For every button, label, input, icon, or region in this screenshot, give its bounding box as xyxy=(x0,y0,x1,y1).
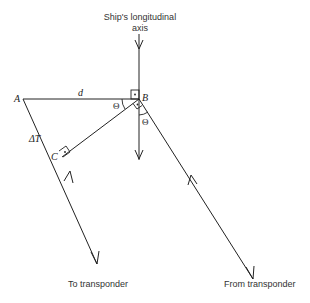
axis-label-line2: axis xyxy=(132,23,149,33)
to-transponder-label: To transponder xyxy=(68,279,128,289)
angle-arc-2 xyxy=(139,112,148,115)
point-A-label: A xyxy=(13,93,21,104)
transponder-geometry-diagram: Ship's longitudinal axis A B C d ΔT Θ Θ … xyxy=(0,0,310,303)
point-C-label: C xyxy=(51,151,58,162)
angle-theta-1-label: Θ xyxy=(113,101,120,111)
arrow-end-from-transponder-icon xyxy=(246,266,254,279)
from-transponder-label: From transponder xyxy=(224,279,296,289)
right-angle-marker-B xyxy=(133,104,142,110)
right-angle-marker-top xyxy=(131,90,139,99)
angle-arc-1 xyxy=(122,99,125,109)
point-B-label: B xyxy=(142,92,148,103)
segment-deltaT-label: ΔT xyxy=(28,133,42,144)
arrow-upward-wavefront-icon xyxy=(64,171,73,183)
segment-BC xyxy=(62,99,139,157)
angle-theta-2-label: Θ xyxy=(142,117,149,127)
axis-label-line1: Ship's longitudinal xyxy=(104,12,176,22)
segment-d-label: d xyxy=(78,87,84,98)
ray-from-transponder xyxy=(139,99,253,279)
ray-to-transponder xyxy=(23,99,97,264)
